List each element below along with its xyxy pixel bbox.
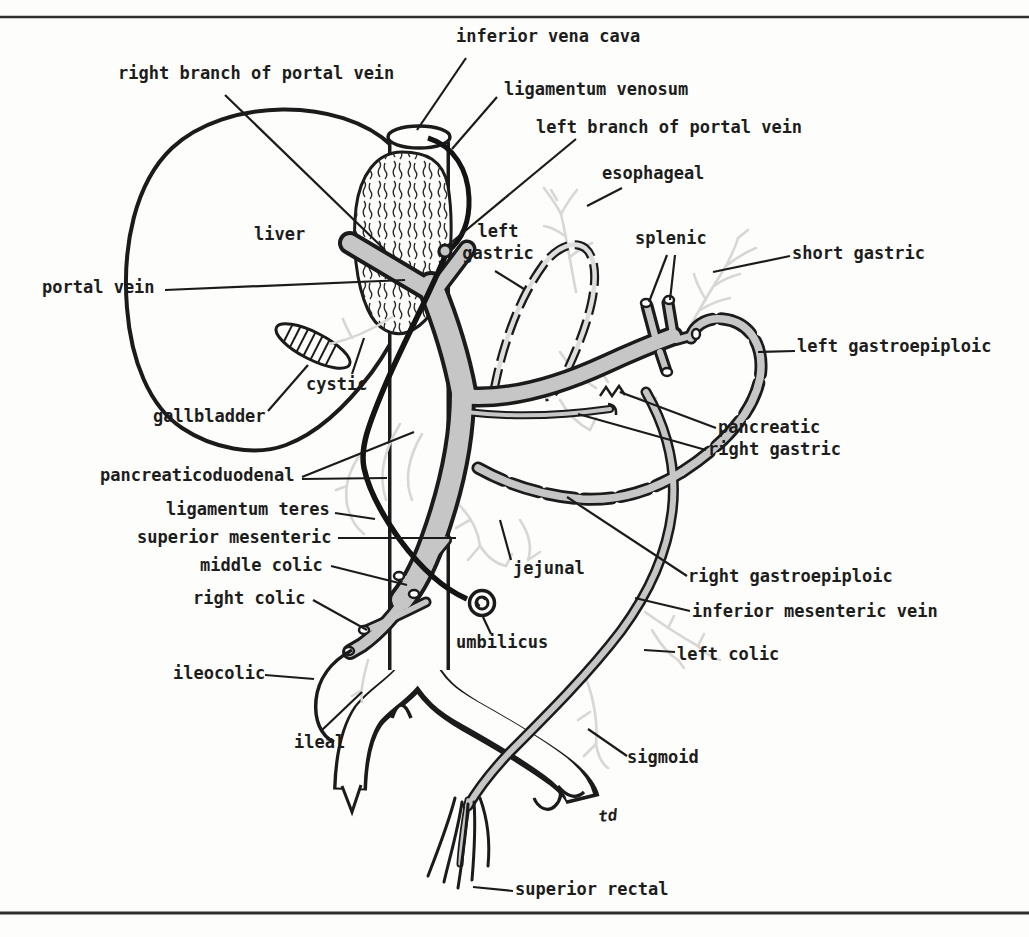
label-portal-vein: portal vein <box>42 277 155 299</box>
label-right-branch-portal-vein: right branch of portal vein <box>118 63 394 85</box>
leader-left-gastric <box>495 271 524 289</box>
label-inferior-vena-cava: inferior vena cava <box>456 26 640 48</box>
label-ileocolic: ileocolic <box>173 663 265 685</box>
label-esophageal: esophageal <box>602 163 704 185</box>
label-liver: liver <box>254 224 305 246</box>
label-jejunal: jejunal <box>513 558 585 580</box>
left-iliac-fork <box>342 785 361 812</box>
leader-left-colic <box>644 650 675 652</box>
label-umbilicus: umbilicus <box>456 632 548 654</box>
label-superior-mesenteric: superior mesenteric <box>137 527 331 549</box>
portal-system-diagram: inferior vena cava right branch of porta… <box>0 0 1029 937</box>
label-pancreaticoduodenal: pancreaticoduodenal <box>100 465 294 487</box>
label-cystic: cystic <box>306 374 367 396</box>
label-middle-colic: middle colic <box>200 555 323 577</box>
leader-left-gastroepiploic <box>758 351 795 352</box>
leader-short-gastric <box>713 256 790 272</box>
leader-esophageal <box>587 188 622 206</box>
leader-ligamentum-teres <box>335 513 375 519</box>
label-left-colic: left colic <box>677 644 779 666</box>
leader-ligamentum-venosum <box>452 97 497 149</box>
leader-inferior-vena-cava <box>417 58 466 130</box>
leader-splenic-1 <box>649 255 667 302</box>
label-right-colic: right colic <box>193 588 306 610</box>
label-gallbladder: gallbladder <box>153 406 266 428</box>
label-left-gastric: left gastric <box>459 221 537 265</box>
leader-pancreaticoduodenal-2 <box>302 478 387 479</box>
label-ligamentum-teres: ligamentum teres <box>166 499 330 521</box>
label-superior-rectal: superior rectal <box>515 879 669 901</box>
left-branch-nub <box>439 245 451 257</box>
leader-jejunal <box>500 520 511 560</box>
label-inferior-mesenteric-vein: inferior mesenteric vein <box>692 601 938 623</box>
label-ileal: ileal <box>294 732 345 754</box>
label-splenic: splenic <box>635 228 707 250</box>
label-pancreatic: pancreatic <box>718 417 820 439</box>
label-right-gastric: right gastric <box>708 439 841 461</box>
leader-superior-rectal <box>473 887 513 891</box>
umbilicus-mark <box>470 591 495 616</box>
label-left-branch-portal-vein: left branch of portal vein <box>536 117 802 139</box>
label-left-gastroepiploic: left gastroepiploic <box>797 336 991 358</box>
label-short-gastric: short gastric <box>792 243 925 265</box>
label-right-gastroepiploic: right gastroepiploic <box>688 566 893 588</box>
leader-pancreatic <box>620 392 716 428</box>
pancreatic-squiggle <box>600 386 625 396</box>
leader-right-gastric <box>578 414 706 450</box>
artist-signature: td <box>597 805 618 826</box>
leader-splenic-2 <box>670 255 675 300</box>
leader-ileocolic <box>265 675 314 679</box>
leader-sigmoid <box>588 729 627 756</box>
label-sigmoid: sigmoid <box>627 747 699 769</box>
label-ligamentum-venosum: ligamentum venosum <box>504 79 688 101</box>
leader-right-colic <box>313 600 367 630</box>
